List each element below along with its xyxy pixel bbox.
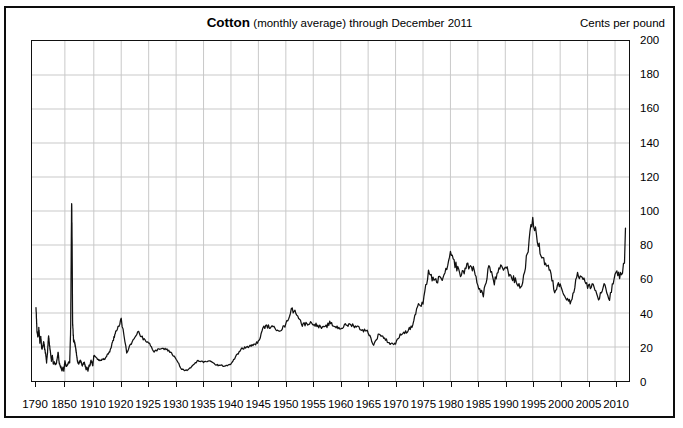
x-axis-tickmark-1945 xyxy=(258,382,259,387)
chart-frame: Cotton (monthly average) through Decembe… xyxy=(4,6,675,418)
x-axis-label-1975: 1975 xyxy=(411,398,437,411)
y-axis-tick-20: 20 xyxy=(640,342,653,353)
x-axis-tickmark-1985 xyxy=(478,382,479,387)
x-axis-labels: 1790185019101920192519301935194019451950… xyxy=(6,398,683,418)
x-axis-tickmark-1965 xyxy=(368,382,369,387)
chart-title-main: Cotton xyxy=(207,15,250,30)
x-axis-label-1965: 1965 xyxy=(356,398,382,411)
x-axis-label-1955: 1955 xyxy=(300,398,326,411)
x-axis-tickmark-2005 xyxy=(589,382,590,387)
x-axis-label-2000: 2000 xyxy=(548,398,574,411)
chart-title-sub: (monthly average) through December 2011 xyxy=(253,17,472,29)
y-axis-units-label: Cents per pound xyxy=(580,16,665,30)
x-axis-ticks xyxy=(31,382,630,392)
x-axis-label-1990: 1990 xyxy=(493,398,519,411)
x-axis-tickmark-1960 xyxy=(341,382,342,387)
x-axis-label-1985: 1985 xyxy=(466,398,492,411)
x-axis-tickmark-1935 xyxy=(203,382,204,387)
x-axis-label-1945: 1945 xyxy=(245,398,271,411)
y-axis-tick-180: 180 xyxy=(640,69,659,80)
x-axis-label-1970: 1970 xyxy=(383,398,409,411)
cotton-price-line xyxy=(32,41,629,381)
y-axis-tick-0: 0 xyxy=(640,377,646,388)
x-axis-tickmark-1990 xyxy=(506,382,507,387)
x-axis-label-1995: 1995 xyxy=(521,398,547,411)
y-axis: 020406080100120140160180200 xyxy=(634,40,682,382)
x-axis-label-1930: 1930 xyxy=(163,398,189,411)
x-axis-label-1910: 1910 xyxy=(80,398,106,411)
y-axis-tick-120: 120 xyxy=(640,171,659,182)
x-axis-tickmark-1940 xyxy=(231,382,232,387)
x-axis-tickmark-2010 xyxy=(616,382,617,387)
y-axis-tick-100: 100 xyxy=(640,206,659,217)
x-axis-label-1980: 1980 xyxy=(438,398,464,411)
x-axis-tickmark-1950 xyxy=(286,382,287,387)
x-axis-tickmark-1930 xyxy=(176,382,177,387)
y-axis-tick-160: 160 xyxy=(640,103,659,114)
x-axis-tickmark-2000 xyxy=(561,382,562,387)
x-axis-tickmark-1995 xyxy=(533,382,534,387)
x-axis-label-1960: 1960 xyxy=(328,398,354,411)
x-axis-tickmark-1955 xyxy=(313,382,314,387)
x-axis-tickmark-1920 xyxy=(121,382,122,387)
page-title: Cotton (monthly average) through Decembe… xyxy=(6,16,673,30)
x-axis-tickmark-1980 xyxy=(451,382,452,387)
x-axis-tickmark-1970 xyxy=(396,382,397,387)
y-axis-tick-40: 40 xyxy=(640,308,653,319)
plot-inner xyxy=(32,41,629,381)
x-axis-tickmark-1975 xyxy=(423,382,424,387)
x-axis-label-1920: 1920 xyxy=(108,398,134,411)
x-axis-tickmark-1790 xyxy=(35,382,36,387)
y-axis-tick-200: 200 xyxy=(640,35,659,46)
x-axis-tickmark-1910 xyxy=(93,382,94,387)
x-axis-tickmark-1850 xyxy=(64,382,65,387)
y-axis-tick-140: 140 xyxy=(640,137,659,148)
x-axis-label-1950: 1950 xyxy=(273,398,299,411)
x-axis-label-1940: 1940 xyxy=(218,398,244,411)
x-axis-label-2005: 2005 xyxy=(576,398,602,411)
x-axis-label-1850: 1850 xyxy=(51,398,77,411)
x-axis-label-2010: 2010 xyxy=(603,398,629,411)
x-axis-label-1790: 1790 xyxy=(22,398,48,411)
y-axis-tick-60: 60 xyxy=(640,274,653,285)
plot-area xyxy=(31,40,630,382)
x-axis-label-1925: 1925 xyxy=(135,398,161,411)
y-axis-tick-80: 80 xyxy=(640,240,653,251)
x-axis-tickmark-1925 xyxy=(148,382,149,387)
x-axis-label-1935: 1935 xyxy=(190,398,216,411)
title-row: Cotton (monthly average) through Decembe… xyxy=(6,16,673,34)
